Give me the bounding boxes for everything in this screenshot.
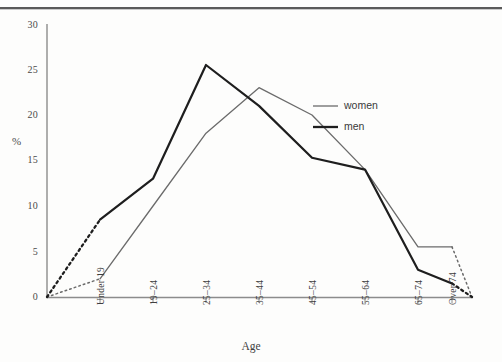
men-dotted-lead-in: [47, 220, 100, 297]
y-tick-label-30: 30: [10, 19, 38, 30]
x-category-label-65-74: 65–74: [414, 280, 424, 305]
y-tick-label-20: 20: [10, 109, 38, 120]
women-dotted-lead-in: [47, 279, 100, 297]
x-axis-title: Age: [0, 340, 502, 352]
x-category-label-under-19: Under 19: [96, 267, 106, 305]
x-category-label-19-24: 19–24: [149, 280, 159, 305]
line-chart-plot: [0, 0, 502, 362]
y-axis-title: %: [12, 135, 21, 147]
y-tick-label-10: 10: [10, 200, 38, 211]
y-tick-label-0: 0: [10, 291, 38, 302]
y-tick-label-25: 25: [10, 64, 38, 75]
y-tick-label-5: 5: [10, 246, 38, 257]
x-category-label-over-74: Over 74: [448, 272, 458, 305]
x-category-label-35-44: 35–44: [255, 280, 265, 305]
x-category-label-55-64: 55–64: [361, 280, 371, 305]
women-series-line: [100, 88, 452, 279]
men-series-line: [100, 65, 452, 283]
x-category-label-45-54: 45–54: [308, 280, 318, 305]
legend-label-men: men: [344, 120, 364, 132]
y-tick-label-15: 15: [10, 154, 38, 165]
legend-label-women: women: [344, 99, 378, 111]
x-category-label-25-34: 25–34: [202, 280, 212, 305]
figure-page: 30 25 20 15 10 5 0 % Under 19 19–24 25–3…: [0, 0, 502, 362]
